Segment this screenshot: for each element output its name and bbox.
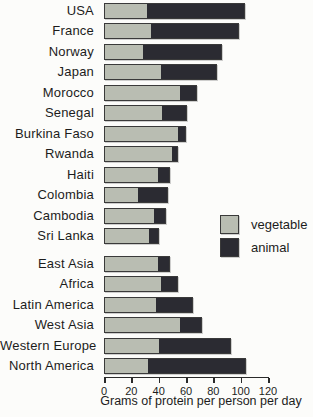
category-label: Cambodia [0, 208, 100, 224]
x-axis-tick [186, 378, 188, 383]
animal-bar-segment [143, 45, 221, 59]
animal-bar-segment [158, 168, 169, 182]
stacked-bar [104, 126, 186, 142]
vegetable-bar-segment [105, 168, 158, 182]
vegetable-bar-segment [105, 209, 154, 223]
legend-item-vegetable: vegetable [220, 215, 312, 234]
animal-bar-segment [154, 209, 165, 223]
stacked-bar [104, 317, 202, 333]
bar-row: Colombia [0, 187, 313, 203]
legend-label-vegetable: vegetable [251, 216, 307, 234]
animal-bar-segment [180, 318, 201, 332]
category-label: Rwanda [0, 146, 100, 162]
bar-row: Senegal [0, 105, 313, 121]
category-label: Japan [0, 64, 100, 80]
animal-bar-segment [158, 257, 169, 271]
animal-bar-segment [180, 86, 196, 100]
animal-bar-segment [161, 277, 177, 291]
stacked-bar [104, 105, 187, 121]
legend-label-animal: animal [251, 239, 289, 257]
stacked-bar [104, 208, 166, 224]
category-label: Morocco [0, 85, 100, 101]
animal-bar-segment [178, 127, 185, 141]
stacked-bar [104, 85, 197, 101]
bar-row: Haiti [0, 167, 313, 183]
vegetable-bar-segment [105, 229, 149, 243]
category-label: USA [0, 3, 100, 19]
vegetable-bar-segment [105, 257, 158, 271]
x-axis-tick [241, 378, 243, 383]
stacked-bar [104, 167, 170, 183]
stacked-bar [104, 228, 159, 244]
vegetable-bar-segment [105, 277, 161, 291]
category-label: France [0, 23, 100, 39]
vegetable-bar-segment [105, 127, 178, 141]
protein-stacked-bar-chart: USAFranceNorwayJapanMoroccoSenegalBurkin… [0, 0, 313, 417]
animal-bar-segment [148, 359, 245, 373]
legend: vegetable animal [220, 215, 312, 261]
category-label: Africa [0, 276, 100, 292]
category-label: East Asia [0, 256, 100, 272]
category-label: Sri Lanka [0, 228, 100, 244]
animal-bar-segment [147, 4, 244, 18]
stacked-bar [104, 358, 246, 374]
animal-bar-segment [172, 147, 177, 161]
vegetable-bar-segment [105, 359, 148, 373]
vegetable-bar-segment [105, 298, 156, 312]
animal-bar-segment [161, 65, 216, 79]
animal-swatch-icon [220, 238, 239, 257]
bar-row: North America [0, 358, 313, 374]
vegetable-bar-segment [105, 339, 159, 353]
x-axis-tick [131, 378, 133, 383]
stacked-bar [104, 297, 193, 313]
bar-row: Africa [0, 276, 313, 292]
bar-row: Western Europe [0, 338, 313, 354]
stacked-bar [104, 44, 222, 60]
bar-row: Japan [0, 64, 313, 80]
x-axis-title: Grams of protein per person per day [88, 394, 313, 408]
legend-item-animal: animal [220, 238, 312, 257]
x-axis-tick [159, 378, 161, 383]
bar-row: Norway [0, 44, 313, 60]
bar-row: Burkina Faso [0, 126, 313, 142]
category-label: North America [0, 358, 100, 374]
category-label: Norway [0, 44, 100, 60]
bar-row: Morocco [0, 85, 313, 101]
x-axis: 020406080100120 [104, 377, 269, 378]
vegetable-bar-segment [105, 45, 143, 59]
bar-row: Rwanda [0, 146, 313, 162]
bar-row: Latin America [0, 297, 313, 313]
vegetable-bar-segment [105, 147, 172, 161]
stacked-bar [104, 146, 178, 162]
x-axis-tick [213, 378, 215, 383]
category-label: Burkina Faso [0, 126, 100, 142]
stacked-bar [104, 64, 217, 80]
category-label: Colombia [0, 187, 100, 203]
animal-bar-segment [159, 339, 230, 353]
category-label: Senegal [0, 105, 100, 121]
stacked-bar [104, 338, 231, 354]
stacked-bar [104, 256, 170, 272]
bar-row: France [0, 23, 313, 39]
x-axis-tick [268, 378, 270, 383]
category-label: West Asia [0, 317, 100, 333]
vegetable-swatch-icon [220, 215, 239, 234]
vegetable-bar-segment [105, 4, 147, 18]
animal-bar-segment [138, 188, 167, 202]
vegetable-bar-segment [105, 65, 161, 79]
animal-bar-segment [149, 229, 158, 243]
bar-row: West Asia [0, 317, 313, 333]
vegetable-bar-segment [105, 188, 138, 202]
category-label: Western Europe [0, 338, 100, 354]
stacked-bar [104, 3, 245, 19]
category-label: Latin America [0, 297, 100, 313]
vegetable-bar-segment [105, 318, 180, 332]
vegetable-bar-segment [105, 86, 180, 100]
category-label: Haiti [0, 167, 100, 183]
stacked-bar [104, 23, 239, 39]
vegetable-bar-segment [105, 106, 162, 120]
animal-bar-segment [162, 106, 186, 120]
stacked-bar [104, 276, 178, 292]
vegetable-bar-segment [105, 24, 151, 38]
bar-row: USA [0, 3, 313, 19]
